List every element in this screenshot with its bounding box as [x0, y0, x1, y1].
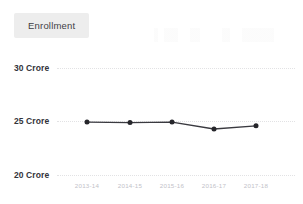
data-point-2016-17[interactable] [212, 126, 217, 131]
data-point-2013-14[interactable] [85, 120, 90, 125]
series-layer [0, 0, 303, 204]
enrollment-line-chart: Enrollment 30 Crore 25 Crore 20 Crore 20… [0, 0, 303, 204]
data-point-2014-15[interactable] [128, 120, 133, 125]
enrollment-markers [85, 120, 259, 132]
data-point-2017-18[interactable] [254, 123, 259, 128]
plot-area: 30 Crore 25 Crore 20 Crore 2013-14 2014-… [0, 0, 303, 204]
data-point-2015-16[interactable] [170, 120, 175, 125]
